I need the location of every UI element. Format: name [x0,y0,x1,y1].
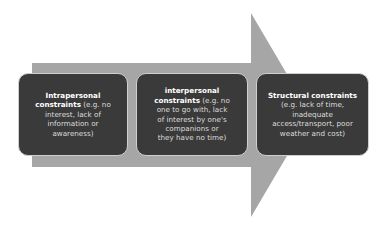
box-detail: they have no time) [158,133,227,142]
box-detail: (e.g. no [81,100,111,109]
box-title: Structural constraints [268,91,357,100]
box-detail: access/transport, poor [272,119,353,128]
box-title: interpersonal [165,86,220,95]
box-detail: interest, lack of [45,110,101,119]
box-detail: of interest by one's [157,115,226,124]
box-title: constraints [154,96,200,105]
box-detail: one to go with, lack [157,105,228,114]
box-detail: inadequate [292,110,333,119]
intrapersonal-constraints-box: Intrapersonal constraints (e.g. no inter… [18,73,128,156]
structural-constraints-box: Structural constraints (e.g. lack of tim… [256,73,369,156]
interpersonal-constraints-box: interpersonal constraints (e.g. no one t… [136,73,248,156]
box-detail: weather and cost) [280,129,345,138]
box-detail: companions or [165,124,218,133]
box-detail: (e.g. no [200,96,230,105]
box-title: constraints [35,100,81,109]
box-detail: (e.g. lack of time, [281,100,344,109]
box-detail: information or [47,119,98,128]
box-detail: awareness) [52,129,93,138]
box-title: Intrapersonal [46,91,101,100]
